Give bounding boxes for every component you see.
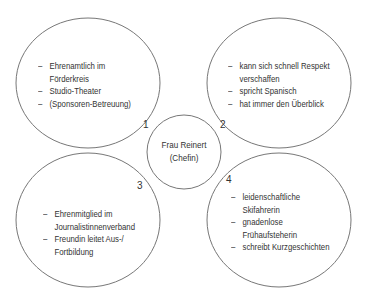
bubble-1-item-3: (Sponsoren-Betreuung) — [38, 98, 131, 111]
bubble-3-item-2: Freundin leitet Aus-/Fortbildung — [43, 233, 135, 258]
bubble-3-item-1: Ehrenmitglied imJournalistinnenverband — [43, 208, 135, 233]
bubble-1-item-1: Ehrenamtlich imFörderkreis — [38, 60, 131, 85]
bubble-4-item-2: gnadenloseFrühaufsteherin — [231, 216, 330, 241]
bubble-2-item-1: kann sich schnell Respektverschaffen — [228, 60, 330, 85]
bubble-3-content: Ehrenmitglied imJournalistinnenverband F… — [43, 208, 135, 258]
bubble-4-content: leidenschaftlicheSkifahrerin gnadenloseF… — [231, 191, 330, 254]
bubble-3-number: 3 — [137, 180, 143, 191]
center-role: (Chefin) — [152, 151, 217, 164]
center-name: Frau Reinert — [152, 138, 217, 151]
bubble-2-number: 2 — [220, 119, 226, 130]
bubble-2-item-2: spricht Spanisch — [228, 85, 330, 98]
bubble-2-item-3: hat immer den Überblick — [228, 98, 330, 111]
bubble-1-item-2: Studio-Theater — [38, 85, 131, 98]
bubble-1-number: 1 — [143, 119, 149, 130]
bubble-4-number: 4 — [226, 174, 232, 185]
bubble-4-item-3: schreibt Kurzgeschichten — [231, 241, 330, 254]
bubble-4-item-1: leidenschaftlicheSkifahrerin — [231, 191, 330, 216]
bubble-2-content: kann sich schnell Respektverschaffen spr… — [228, 60, 330, 110]
center-node: Frau Reinert (Chefin) — [146, 138, 222, 164]
bubble-1-content: Ehrenamtlich imFörderkreis Studio-Theate… — [38, 60, 131, 110]
